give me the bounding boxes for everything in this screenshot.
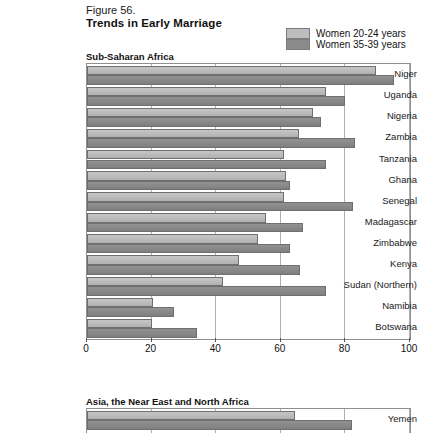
bar-sudan-northern-women-20-24 bbox=[87, 277, 223, 287]
bar-uganda-women-35-39 bbox=[87, 96, 345, 106]
bar-zimbabwe-women-20-24 bbox=[87, 234, 258, 244]
bar-senegal-women-35-39 bbox=[87, 202, 353, 212]
bar-senegal-women-20-24 bbox=[87, 192, 284, 202]
bar-kenya-women-20-24 bbox=[87, 255, 239, 265]
category-label-tanzania: Tanzania bbox=[339, 153, 421, 164]
section-heading-asia-near-east-north-africa: Asia, the Near East and North Africa bbox=[86, 396, 249, 407]
category-label-botswana: Botswana bbox=[339, 321, 421, 332]
x-tick-mark-80 bbox=[344, 338, 345, 342]
category-label-sudan-northern: Sudan (Northern) bbox=[339, 279, 421, 290]
x-axis: 020406080100 bbox=[86, 338, 410, 358]
bar-zambia-women-35-39 bbox=[87, 138, 355, 148]
x-tick-label-40: 40 bbox=[210, 343, 221, 354]
category-label-namibia: Namibia bbox=[339, 300, 421, 311]
x-tick-mark-20 bbox=[151, 338, 152, 342]
bar-namibia-women-20-24 bbox=[87, 298, 153, 308]
category-label-zimbabwe: Zimbabwe bbox=[339, 237, 421, 248]
x-tick-mark-40 bbox=[215, 338, 216, 342]
bar-botswana-women-35-39 bbox=[87, 328, 197, 338]
bar-sudan-northern-women-35-39 bbox=[87, 286, 326, 296]
bar-ghana-women-20-24 bbox=[87, 171, 286, 181]
figure-title: Trends in Early Marriage bbox=[86, 17, 222, 30]
bar-botswana-women-20-24 bbox=[87, 319, 152, 329]
x-tick-label-0: 0 bbox=[83, 343, 89, 354]
chart-legend: Women 20-24 years Women 35-39 years bbox=[286, 28, 406, 50]
bar-madagascar-women-35-39 bbox=[87, 223, 303, 233]
legend-label-women-35-39: Women 35-39 years bbox=[316, 39, 406, 50]
bar-uganda-women-20-24 bbox=[87, 87, 326, 97]
bar-namibia-women-35-39 bbox=[87, 307, 174, 317]
legend-item-women-35-39: Women 35-39 years bbox=[286, 39, 406, 50]
x-tick-label-100: 100 bbox=[401, 343, 418, 354]
x-tick-mark-0 bbox=[86, 338, 87, 342]
legend-label-women-20-24: Women 20-24 years bbox=[316, 28, 406, 39]
bar-tanzania-women-35-39 bbox=[87, 160, 326, 170]
x-tick-label-80: 80 bbox=[339, 343, 350, 354]
x-tick-label-20: 20 bbox=[145, 343, 156, 354]
bar-niger-women-20-24 bbox=[87, 66, 376, 76]
panel-sub-saharan-africa: NigerUgandaNigeriaZambiaTanzaniaGhanaSen… bbox=[0, 63, 421, 348]
bar-madagascar-women-20-24 bbox=[87, 213, 266, 223]
bar-tanzania-women-20-24 bbox=[87, 150, 284, 160]
bar-zimbabwe-women-35-39 bbox=[87, 244, 290, 254]
panel-asia-near-east-north-africa: Yemen bbox=[0, 408, 421, 432]
category-label-madagascar: Madagascar bbox=[339, 216, 421, 227]
section-heading-sub-saharan-africa: Sub-Saharan Africa bbox=[86, 51, 174, 62]
bar-ghana-women-35-39 bbox=[87, 181, 290, 191]
category-label-senegal: Senegal bbox=[339, 195, 421, 206]
x-tick-mark-100 bbox=[409, 338, 410, 342]
bar-kenya-women-35-39 bbox=[87, 265, 300, 275]
category-label-yemen: Yemen bbox=[339, 413, 421, 424]
x-tick-mark-60 bbox=[280, 338, 281, 342]
category-label-kenya: Kenya bbox=[339, 258, 421, 269]
figure-number: Figure 56. bbox=[86, 4, 222, 17]
category-label-ghana: Ghana bbox=[339, 174, 421, 185]
legend-swatch-women-20-24 bbox=[286, 28, 310, 39]
category-label-nigeria: Nigeria bbox=[339, 110, 421, 121]
category-label-uganda: Uganda bbox=[339, 89, 421, 100]
category-label-niger: Niger bbox=[339, 68, 421, 79]
bar-nigeria-women-35-39 bbox=[87, 117, 321, 127]
figure-header: Figure 56. Trends in Early Marriage bbox=[86, 4, 222, 30]
legend-swatch-women-35-39 bbox=[286, 39, 310, 50]
bar-nigeria-women-20-24 bbox=[87, 108, 313, 118]
bar-yemen-women-20-24 bbox=[87, 411, 295, 421]
x-tick-label-60: 60 bbox=[274, 343, 285, 354]
category-label-zambia: Zambia bbox=[339, 131, 421, 142]
legend-item-women-20-24: Women 20-24 years bbox=[286, 28, 406, 39]
bar-zambia-women-20-24 bbox=[87, 129, 299, 139]
bar-yemen-women-35-39 bbox=[87, 420, 352, 430]
